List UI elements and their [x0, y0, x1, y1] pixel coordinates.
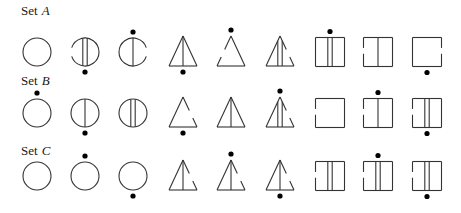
- figure-b-9-square: [413, 99, 442, 137]
- figure-a-7-square: [316, 29, 345, 67]
- figure-a-3-circle: [119, 29, 146, 66]
- figure-b-2-circle: [71, 99, 99, 136]
- figure-c-4-triangle: [169, 160, 197, 190]
- dot-top-icon: [375, 153, 380, 158]
- figure-c-8-square: [364, 153, 393, 191]
- figure-c-5-triangle: [217, 151, 245, 190]
- figure-a-5-triangle: [217, 27, 245, 66]
- figure-c-9-square: [413, 162, 442, 200]
- dot-bottom-icon: [180, 69, 185, 74]
- dot-top-icon: [375, 90, 380, 95]
- dot-bottom-icon: [180, 130, 185, 135]
- figure-c-1-circle: [23, 162, 51, 190]
- dot-top-icon: [82, 153, 87, 158]
- figure-c-6-triangle: [266, 160, 294, 199]
- figure-b-8-square: [364, 90, 393, 128]
- dot-bottom-icon: [82, 69, 87, 74]
- dot-top-icon: [130, 29, 135, 34]
- figure-c-2-circle: [71, 153, 99, 190]
- figure-b-4-triangle: [169, 97, 197, 136]
- dot-bottom-icon: [82, 130, 87, 135]
- dot-bottom-icon: [424, 70, 429, 75]
- dot-top-icon: [277, 88, 282, 93]
- figure-b-1-circle: [23, 90, 51, 127]
- dot-bottom-icon: [130, 193, 135, 198]
- dot-bottom-icon: [424, 131, 429, 136]
- figure-b-6-triangle: [266, 88, 294, 127]
- figure-a-8-square: [364, 38, 393, 67]
- figure-c-3-circle: [119, 162, 147, 199]
- figure-c-7-square: [316, 162, 345, 191]
- figure-a-2-circle: [72, 38, 99, 75]
- dot-top-icon: [34, 90, 39, 95]
- dot-bottom-icon: [277, 193, 282, 198]
- dot-top-icon: [327, 29, 332, 34]
- figure-a-9-square: [413, 38, 442, 76]
- figure-grid: [0, 0, 461, 213]
- dot-top-icon: [228, 151, 233, 156]
- figure-a-1-circle: [23, 38, 51, 66]
- dot-bottom-icon: [424, 194, 429, 199]
- figure-b-3-circle: [119, 99, 147, 127]
- figure-a-6-triangle: [266, 36, 294, 66]
- dot-top-icon: [228, 27, 233, 32]
- figure-b-7-square: [316, 99, 345, 128]
- figure-a-4-triangle: [169, 36, 197, 75]
- figure-b-5-triangle: [217, 97, 245, 127]
